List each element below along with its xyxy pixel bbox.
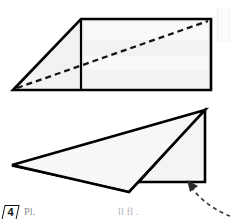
page-margin-artifact bbox=[217, 8, 230, 42]
step-number-label: 4 bbox=[4, 206, 17, 219]
caption-row: 4 Pl. ll fl . bbox=[0, 203, 232, 219]
paper-texture-band-top bbox=[84, 22, 208, 40]
paper-folding-illustration bbox=[0, 0, 232, 219]
bottom-shape-group bbox=[12, 110, 205, 192]
top-shape-group bbox=[13, 19, 211, 90]
figure-screenshot: 4 Pl. ll fl . bbox=[0, 0, 232, 219]
caption-text-partial-2: ll fl . bbox=[118, 206, 139, 217]
caption-text-partial: Pl. bbox=[24, 206, 35, 217]
step-number-badge: 4 bbox=[1, 205, 19, 219]
